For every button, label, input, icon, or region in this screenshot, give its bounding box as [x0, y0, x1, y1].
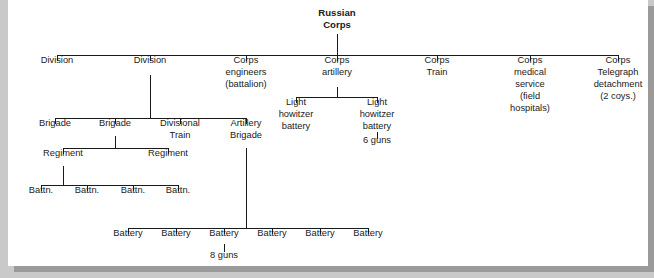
- node-battn-1[interactable]: Battn.: [29, 185, 53, 195]
- node-label: howitzer: [360, 109, 395, 119]
- node-label: Brigade: [39, 118, 71, 128]
- node-regiment-1[interactable]: Regiment: [43, 148, 83, 158]
- node-battn-3[interactable]: Battn.: [121, 185, 145, 195]
- node-battn-2[interactable]: Battn.: [75, 185, 99, 195]
- node-label: Corps: [518, 55, 543, 65]
- node-battery-5[interactable]: Battery: [305, 228, 335, 238]
- org-chart: RussianCorpsDivisionDivisionCorpsenginee…: [0, 0, 654, 278]
- node-label: Battery: [353, 228, 383, 238]
- note-label-battery-3: 8 guns: [210, 250, 238, 260]
- node-label: Battn.: [121, 185, 145, 195]
- node-label: (battalion): [225, 79, 266, 89]
- node-label: service: [515, 79, 544, 89]
- node-light-howitzer-battery-1[interactable]: Lighthowitzerbattery: [279, 97, 314, 131]
- node-label: Corps: [325, 55, 350, 65]
- node-label: hospitals): [510, 103, 550, 113]
- node-label: detachment: [594, 79, 643, 89]
- node-label: Divisional: [160, 118, 200, 128]
- node-label: Division: [41, 55, 74, 65]
- node-corps-engineers[interactable]: Corpsengineers(battalion): [225, 55, 266, 89]
- node-label: Battery: [305, 228, 335, 238]
- diagram-page: RussianCorpsDivisionDivisionCorpsenginee…: [0, 0, 654, 278]
- node-label: Corps: [234, 55, 259, 65]
- node-label: Light: [367, 97, 388, 107]
- node-label: Battery: [257, 228, 287, 238]
- node-label: Light: [286, 97, 307, 107]
- node-label: Brigade: [230, 130, 262, 140]
- node-label: Corps: [425, 55, 450, 65]
- node-label: Regiment: [148, 148, 188, 158]
- node-label: battery: [363, 121, 392, 131]
- node-label: battery: [282, 121, 311, 131]
- node-label: Telegraph: [598, 67, 639, 77]
- node-corps-artillery[interactable]: Corpsartillery: [322, 55, 352, 77]
- node-corps-telegraph-detachment[interactable]: CorpsTelegraphdetachment(2 coys.): [594, 55, 643, 101]
- node-label: Russian: [318, 7, 355, 18]
- node-battery-1[interactable]: Battery: [113, 228, 143, 238]
- node-corps-medical-service[interactable]: Corpsmedicalservice(fieldhospitals): [510, 55, 550, 113]
- node-label: Battn.: [29, 185, 53, 195]
- node-label: Corps: [323, 19, 351, 30]
- node-division-1[interactable]: Division: [41, 55, 74, 65]
- node-battery-6[interactable]: Battery: [353, 228, 383, 238]
- node-battery-4[interactable]: Battery: [257, 228, 287, 238]
- node-label: artillery: [322, 67, 352, 77]
- node-division-2[interactable]: Division: [134, 55, 167, 65]
- node-label: medical: [514, 67, 546, 77]
- node-label: engineers: [226, 67, 267, 77]
- node-label: Brigade: [99, 118, 131, 128]
- node-label: Battn.: [75, 185, 99, 195]
- node-battn-4[interactable]: Battn.: [166, 185, 190, 195]
- node-brigade-1[interactable]: Brigade: [39, 118, 71, 128]
- node-russian-corps[interactable]: RussianCorps: [318, 7, 355, 30]
- node-label: Artillery: [231, 118, 262, 128]
- node-label: Corps: [606, 55, 631, 65]
- node-battery-2[interactable]: Battery: [161, 228, 191, 238]
- node-label: Train: [170, 130, 191, 140]
- node-divisional-train[interactable]: DivisionalTrain: [160, 118, 200, 140]
- node-brigade-2[interactable]: Brigade: [99, 118, 131, 128]
- node-label: Battery: [113, 228, 143, 238]
- node-label: Battery: [209, 228, 239, 238]
- node-label: (2 coys.): [600, 91, 636, 101]
- node-label: Battn.: [166, 185, 190, 195]
- node-label: Train: [427, 67, 448, 77]
- node-label: Division: [134, 55, 167, 65]
- note-label-light-howitzer-battery-2: 6 guns: [363, 135, 391, 145]
- node-label: Regiment: [43, 148, 83, 158]
- node-regiment-2[interactable]: Regiment: [148, 148, 188, 158]
- node-artillery-brigade[interactable]: ArtilleryBrigade: [230, 118, 262, 140]
- node-labels: RussianCorpsDivisionDivisionCorpsenginee…: [29, 7, 643, 260]
- node-label: howitzer: [279, 109, 314, 119]
- node-label: (field: [520, 91, 540, 101]
- node-corps-train[interactable]: CorpsTrain: [425, 55, 450, 77]
- node-label: Battery: [161, 228, 191, 238]
- node-light-howitzer-battery-2[interactable]: Lighthowitzerbattery6 guns: [360, 97, 395, 145]
